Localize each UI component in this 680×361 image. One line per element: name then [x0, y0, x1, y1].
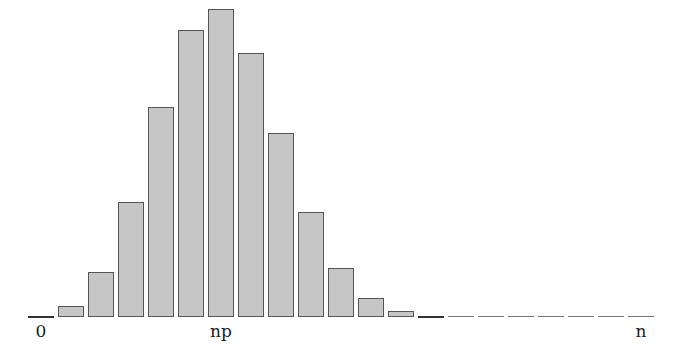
bar-k-20 [628, 316, 654, 318]
bar-k-9 [298, 212, 324, 317]
bar-k-17 [538, 316, 564, 318]
bar-k-12 [388, 311, 414, 317]
bar-k-14 [448, 316, 474, 318]
tick-label-np: np [210, 321, 232, 341]
bar-k-10 [328, 268, 354, 317]
tick-label-n: n [636, 321, 647, 341]
bar-k-13 [418, 316, 444, 318]
bar-k-3 [118, 202, 144, 317]
bar-k-16 [508, 316, 534, 318]
bar-k-0 [28, 316, 54, 318]
bar-k-5 [178, 30, 204, 317]
bar-k-7 [238, 53, 264, 317]
bar-k-2 [88, 272, 114, 317]
binomial-bar-chart [0, 0, 680, 361]
bar-k-19 [598, 316, 624, 318]
bar-k-4 [148, 107, 174, 317]
bar-k-18 [568, 316, 594, 318]
bar-k-8 [268, 133, 294, 317]
bar-k-6 [208, 9, 234, 317]
tick-label-zero: 0 [36, 321, 47, 341]
bar-k-1 [58, 306, 84, 317]
bar-k-11 [358, 298, 384, 317]
bar-k-15 [478, 316, 504, 318]
